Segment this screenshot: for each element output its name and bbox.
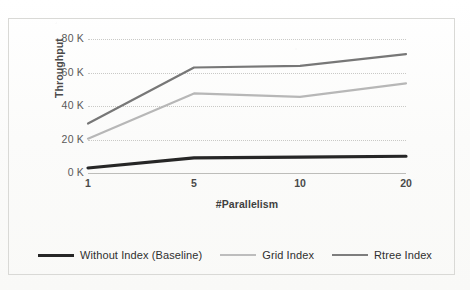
x-tick-label: 10 bbox=[294, 177, 306, 189]
chart-screenshot: Throughput 0 K20 K40 K60 K80 K 151020 #P… bbox=[0, 0, 470, 290]
x-axis-title: #Parallelism bbox=[88, 198, 406, 210]
legend-label: Grid Index bbox=[262, 249, 314, 261]
y-axis-tick-labels: 0 K20 K40 K60 K80 K bbox=[38, 39, 84, 173]
legend-item[interactable]: Without Index (Baseline) bbox=[38, 249, 202, 261]
legend-item[interactable]: Rtree Index bbox=[332, 249, 432, 261]
x-axis-line bbox=[88, 173, 406, 174]
legend-line-swatch bbox=[220, 254, 256, 256]
legend-label: Rtree Index bbox=[374, 249, 432, 261]
legend-label: Without Index (Baseline) bbox=[80, 249, 202, 261]
plot-area bbox=[88, 39, 406, 173]
legend-line-swatch bbox=[332, 254, 368, 256]
y-tick-label: 20 K bbox=[38, 133, 84, 145]
x-tick-label: 5 bbox=[191, 177, 197, 189]
x-axis-tick-labels: 151020 bbox=[88, 177, 406, 193]
y-tick-label: 60 K bbox=[38, 66, 84, 78]
y-tick-label: 0 K bbox=[38, 166, 84, 178]
legend-line-swatch bbox=[38, 254, 74, 257]
x-tick-label: 20 bbox=[400, 177, 412, 189]
chart-legend: Without Index (Baseline)Grid IndexRtree … bbox=[30, 246, 440, 264]
x-tick-label: 1 bbox=[85, 177, 91, 189]
y-tick-label: 80 K bbox=[38, 32, 84, 44]
series-lines bbox=[88, 39, 406, 173]
legend-item[interactable]: Grid Index bbox=[220, 249, 314, 261]
series-line bbox=[88, 83, 406, 138]
y-tick-label: 40 K bbox=[38, 99, 84, 111]
series-line bbox=[88, 156, 406, 168]
